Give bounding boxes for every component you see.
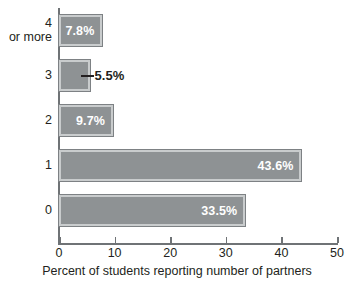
y-axis-tick-label: 1 [0, 159, 52, 173]
bar-value-label: 9.7% [76, 114, 111, 128]
bar-row: 5.5% [59, 53, 337, 98]
bar[interactable]: 33.5% [59, 195, 245, 226]
x-axis-tick-mark [226, 237, 228, 243]
x-axis-tick-mark [281, 237, 283, 243]
bar[interactable]: 7.8% [59, 15, 102, 46]
bar-row: 9.7% [59, 98, 337, 143]
x-axis-line [58, 243, 338, 245]
x-axis-tick-mark [337, 237, 339, 243]
leader-line [81, 75, 94, 77]
bar[interactable]: 43.6% [59, 150, 301, 181]
y-axis-tick-label: 3 [0, 69, 52, 83]
bar-value-label: 33.5% [201, 204, 243, 218]
y-axis-tick-label: 0 [0, 204, 52, 218]
x-axis-tick-mark [115, 237, 117, 243]
y-axis-tick-label: 2 [0, 114, 52, 128]
x-axis-tick-label: 10 [95, 246, 135, 260]
bar-value-text: 5.5% [95, 68, 125, 83]
bar-value-label: 43.6% [257, 159, 299, 173]
bar-row: 43.6% [59, 143, 337, 188]
x-axis-tick-label: 40 [261, 246, 301, 260]
x-axis-tick-label: 50 [317, 246, 354, 260]
bar[interactable]: 9.7% [59, 105, 113, 136]
x-axis-title: Percent of students reporting number of … [0, 264, 354, 278]
y-axis-tick-label: 4 or more [0, 17, 52, 44]
bar-chart: 7.8%5.5%9.7%43.6%33.5% 4 or more3210 010… [0, 0, 354, 285]
x-axis-tick-mark [59, 237, 61, 243]
x-axis-tick-mark [170, 237, 172, 243]
x-axis-tick-label: 20 [150, 246, 190, 260]
x-axis-tick-label: 30 [206, 246, 246, 260]
bar-row: 7.8% [59, 8, 337, 53]
bar-row: 33.5% [59, 188, 337, 233]
bar-value-label: 5.5% [90, 60, 125, 91]
bar-value-label: 7.8% [65, 24, 100, 38]
plot-area: 7.8%5.5%9.7%43.6%33.5% [59, 8, 337, 243]
x-axis-tick-label: 0 [39, 246, 79, 260]
